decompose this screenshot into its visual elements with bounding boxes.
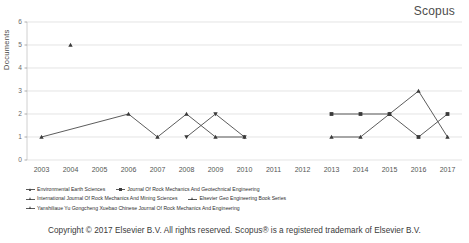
triangle-marker-icon: [26, 197, 35, 202]
svg-text:4: 4: [18, 64, 22, 71]
legend-item[interactable]: Journal Of Rock Mechanics And Geotechnic…: [116, 185, 259, 194]
legend-item[interactable]: Yanshiliaue Yu Gongcheng Xuebao Chinese …: [26, 204, 240, 213]
svg-text:2016: 2016: [411, 166, 427, 173]
svg-text:0: 0: [18, 156, 22, 163]
svg-text:2003: 2003: [34, 166, 50, 173]
y-axis-ticks: 0123456: [18, 18, 22, 163]
triangle-marker-icon: [26, 187, 35, 192]
triangle-marker-icon: [188, 197, 197, 202]
data-series: [330, 112, 450, 139]
legend-item-label: Yanshiliaue Yu Gongcheng Xuebao Chinese …: [37, 205, 240, 211]
legend-item[interactable]: Environmental Earth Sciences: [26, 185, 105, 194]
svg-text:5: 5: [18, 41, 22, 48]
legend-row: International Journal Of Rock Mechanics …: [26, 194, 456, 203]
line-chart-plot: 0123456 20032004200520062007200820092010…: [0, 0, 469, 185]
grid-lines: [25, 22, 463, 160]
svg-text:2005: 2005: [92, 166, 108, 173]
svg-text:6: 6: [18, 18, 22, 25]
triangle-marker-icon: [26, 206, 35, 211]
legend-item-label: Journal Of Rock Mechanics And Geotechnic…: [127, 186, 259, 192]
svg-text:2004: 2004: [63, 166, 79, 173]
svg-text:2008: 2008: [179, 166, 195, 173]
svg-text:2014: 2014: [353, 166, 369, 173]
svg-text:2006: 2006: [121, 166, 137, 173]
svg-text:2013: 2013: [324, 166, 340, 173]
svg-text:2007: 2007: [150, 166, 166, 173]
legend-item-label: International Journal Of Rock Mechanics …: [37, 195, 177, 201]
chart-legend: Environmental Earth SciencesJournal Of R…: [26, 185, 456, 213]
svg-text:2: 2: [18, 110, 22, 117]
legend-row: Yanshiliaue Yu Gongcheng Xuebao Chinese …: [26, 204, 456, 213]
legend-item[interactable]: International Journal Of Rock Mechanics …: [26, 194, 177, 203]
svg-text:2012: 2012: [295, 166, 311, 173]
svg-text:2015: 2015: [382, 166, 398, 173]
svg-text:2009: 2009: [208, 166, 224, 173]
x-axis-ticks: 2003200420052006200720082009201020112012…: [34, 166, 456, 173]
svg-text:2011: 2011: [266, 166, 281, 173]
square-marker-icon: [116, 187, 125, 192]
legend-row: Environmental Earth SciencesJournal Of R…: [26, 185, 456, 194]
legend-item-label: Elsevier Geo Engineering Book Series: [199, 195, 286, 201]
svg-text:3: 3: [18, 87, 22, 94]
scopus-chart-panel: Scopus Documents 0123456 200320042005200…: [0, 0, 469, 243]
legend-item[interactable]: Elsevier Geo Engineering Book Series: [188, 194, 286, 203]
svg-text:2017: 2017: [440, 166, 456, 173]
svg-text:1: 1: [18, 133, 22, 140]
legend-item-label: Environmental Earth Sciences: [37, 186, 105, 192]
copyright-notice: Copyright © 2017 Elsevier B.V. All right…: [0, 226, 469, 235]
svg-text:2010: 2010: [237, 166, 253, 173]
